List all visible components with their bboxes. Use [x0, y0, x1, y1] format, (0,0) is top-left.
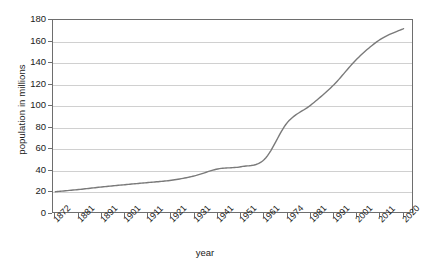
y-axis-tick-label: 160 [6, 36, 46, 46]
y-axis-tick-label: 80 [6, 122, 46, 132]
x-axis-title-text: year [196, 247, 214, 258]
chart-container: population in millions 02040608010012014… [0, 0, 432, 266]
series-line-population [53, 20, 414, 214]
y-axis-tick-label: 0 [6, 208, 46, 218]
y-axis-tick-label: 120 [6, 79, 46, 89]
y-axis-tick-label: 180 [6, 14, 46, 24]
plot-area [52, 19, 413, 213]
y-axis-tick-mark [48, 213, 52, 214]
y-axis-tick-label: 40 [6, 165, 46, 175]
y-axis-tick-label: 20 [6, 186, 46, 196]
x-axis-title: year [0, 247, 432, 258]
y-axis-tick-label: 60 [6, 143, 46, 153]
y-axis-tick-label: 100 [6, 100, 46, 110]
y-axis-tick-label: 140 [6, 57, 46, 67]
